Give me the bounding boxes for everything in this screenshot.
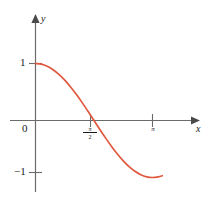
x-axis-label-pi: π xyxy=(148,126,158,133)
half-pi-denominator: 2 xyxy=(83,133,97,139)
y-axis-arrowhead xyxy=(31,14,39,23)
x-axis xyxy=(10,116,200,124)
x-axis-name: x xyxy=(196,124,200,134)
y-axis-name: y xyxy=(41,14,45,24)
plot-canvas xyxy=(0,0,211,215)
y-axis-label-negative-one: −1 xyxy=(14,166,26,177)
half-pi-numerator: π xyxy=(83,126,97,133)
y-axis-label-one: 1 xyxy=(20,57,26,68)
cosine-curve-figure: 1 0 −1 π 2 π y x xyxy=(0,0,211,215)
y-axis xyxy=(31,14,39,192)
origin-label-zero: 0 xyxy=(22,123,28,134)
x-axis-label-half-pi: π 2 xyxy=(83,126,97,140)
